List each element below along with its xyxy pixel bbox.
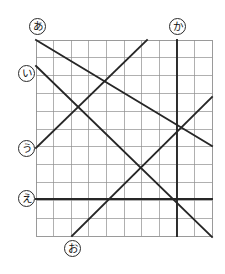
label-text: か: [173, 21, 183, 32]
grid-minor-lines: [36, 40, 212, 236]
label-text: あ: [33, 21, 43, 32]
label-text: い: [22, 68, 32, 79]
line-label-o: お: [64, 240, 81, 257]
diagonal-line-u: [36, 40, 147, 148]
line-label-a: あ: [29, 18, 46, 35]
figure-container: あいうえおか: [0, 0, 225, 274]
line-label-i: い: [18, 65, 35, 82]
label-text: え: [22, 193, 32, 204]
line-label-e: え: [18, 190, 35, 207]
diagonal-line-o: [72, 97, 212, 236]
line-label-ka: か: [169, 18, 186, 35]
label-text: う: [22, 143, 32, 154]
line-label-u: う: [18, 140, 35, 157]
figure-canvas: [0, 0, 225, 274]
label-text: お: [68, 243, 78, 254]
